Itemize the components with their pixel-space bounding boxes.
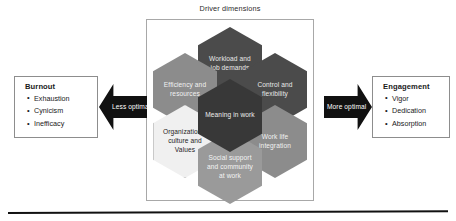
burnout-box: Burnout Exhaustion Cynicism Inefficacy (14, 76, 98, 138)
list-item: Exhaustion (27, 95, 89, 102)
engagement-list: Vigor Dedication Absorption (382, 95, 441, 128)
bottom-divider (8, 210, 448, 214)
engagement-box: Engagement Vigor Dedication Absorption (372, 76, 450, 138)
left-arrow-label: Less optimal (112, 104, 150, 111)
list-item: Vigor (385, 95, 441, 102)
burnout-title: Burnout (25, 83, 89, 91)
list-item: Inefficacy (27, 120, 89, 127)
engagement-title: Engagement (383, 83, 441, 91)
hexagon-label: Meaning in work (205, 111, 255, 120)
list-item: Cynicism (27, 107, 89, 114)
hexagon-label: Social support and community at work (204, 154, 256, 180)
driver-dimensions-title: Driver dimensions (146, 5, 314, 12)
list-item: Absorption (385, 120, 441, 127)
list-item: Dedication (385, 107, 441, 114)
burnout-list: Exhaustion Cynicism Inefficacy (24, 95, 89, 128)
hexagon-cluster: Workload and job demands Efficiency and … (146, 19, 314, 201)
right-arrow-label: More optimal (327, 104, 366, 111)
